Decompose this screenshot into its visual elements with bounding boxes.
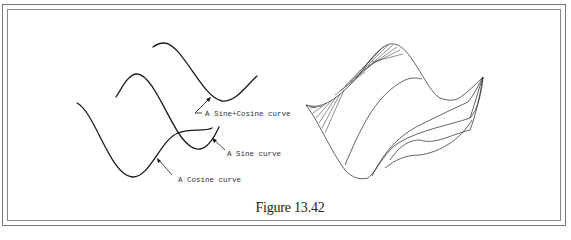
cosine-curve — [77, 103, 212, 177]
sine-cosine-curve — [153, 43, 257, 101]
label-sine-cosine: A Sine+Cosine curve — [205, 110, 291, 118]
surface-hatching — [306, 45, 403, 133]
label-cosine: A Cosine curve — [178, 176, 241, 184]
figure-caption: Figure 13.42 — [240, 200, 340, 216]
surface-wireframe — [306, 44, 483, 179]
label-sine: A Sine curve — [227, 150, 281, 158]
sine-curve — [116, 74, 219, 149]
